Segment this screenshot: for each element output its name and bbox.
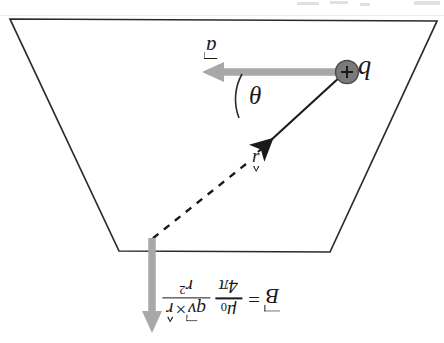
unit-vector-symbol: r [166, 299, 173, 322]
formula-constant-fraction: μ0 4π [215, 277, 242, 322]
cross-product-symbol: × [173, 299, 188, 320]
formula-equals-sign: = [247, 287, 261, 312]
charge-label: b [358, 56, 372, 83]
velocity-symbol: v [188, 299, 196, 321]
point-charge [336, 61, 359, 84]
distance-symbol: r [185, 276, 192, 297]
physics-diagram-figure: b a θ ɹ B = μ0 4π qv×r r2 [0, 0, 444, 343]
squared-exponent: 2 [179, 283, 185, 297]
formula-main-fraction: qv×r r2 [162, 276, 210, 322]
four-digit: 4 [229, 276, 239, 297]
scan-artifact [330, 1, 348, 4]
scan-artifact [414, 1, 440, 5]
fraction-bar [215, 297, 242, 299]
plane-trapezoid [10, 19, 437, 252]
biot-savart-formula: B = μ0 4π qv×r r2 [162, 276, 279, 322]
angle-arc [235, 74, 242, 118]
scan-artifact [297, 2, 319, 5]
angle-label: θ [249, 83, 261, 108]
radius-vector-line [258, 76, 341, 152]
unit-vector-label-text: ɹ [252, 150, 259, 172]
magnetic-field-arrow [142, 238, 162, 333]
pi-symbol: π [219, 276, 229, 297]
mu-symbol: μ [227, 302, 237, 323]
unit-vector-label: ɹ [252, 150, 259, 172]
charge-symbol: q [197, 299, 207, 320]
scan-artifact [360, 3, 370, 6]
velocity-label: a [206, 36, 217, 59]
velocity-label-text: a [206, 36, 217, 59]
formula-main-denominator: r2 [175, 276, 197, 297]
velocity-vector-arrow [202, 62, 345, 82]
formula-lhs-symbol: B [266, 284, 279, 312]
formula-constant-denominator: 4π [215, 277, 242, 298]
formula-constant-numerator: μ0 [217, 299, 241, 322]
mu-subscript: 0 [221, 300, 227, 314]
scan-artifact [0, 15, 444, 16]
fraction-bar [162, 297, 210, 299]
dashed-projection-line [152, 164, 246, 239]
formula-main-numerator: qv×r [162, 298, 210, 322]
formula-lhs: B [266, 284, 279, 315]
